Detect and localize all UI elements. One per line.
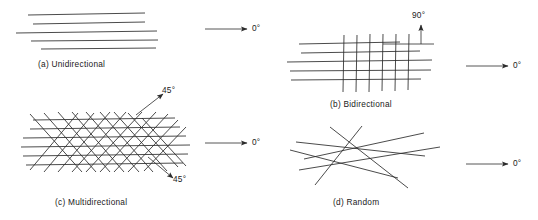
panel-d-angle-label-0: 0°	[513, 158, 521, 168]
panel-c-caption: (c) Multidirectional	[55, 197, 127, 207]
panel-c-angle-label-45-lower: 45°	[173, 174, 186, 184]
panel-c-upper-45-arrow	[136, 94, 163, 115]
panel-a-caption: (a) Unidirectional	[38, 59, 105, 69]
panel-b-angle-label-90: 90°	[412, 10, 425, 20]
fiber-orientation-figure: 0° 90° 0° 45° 45° 0° 0° (a) Unidirection…	[0, 0, 538, 220]
figure-canvas	[0, 0, 538, 220]
panel-c-angle-label-45-upper: 45°	[162, 85, 175, 95]
panel-c-angle-label-0: 0°	[252, 137, 260, 147]
panel-c-lower-45-arrow	[148, 157, 173, 178]
panel-c-horizontal-fibers	[21, 118, 190, 165]
panel-b-angle-label-0: 0°	[513, 60, 521, 70]
panel-a-angle-label-0: 0°	[252, 23, 260, 33]
panel-a-unidirectional-fibers	[16, 13, 158, 49]
panel-b-caption: (b) Bidirectional	[330, 99, 392, 109]
panel-d-caption: (d) Random	[333, 197, 379, 207]
panel-b-horizontal-fibers	[287, 42, 432, 80]
panel-d-random-fibers	[290, 126, 440, 188]
